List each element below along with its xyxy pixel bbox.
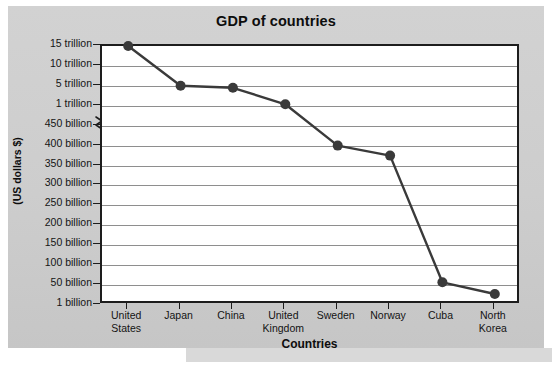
- x-axis-tick-label: Japan: [164, 309, 193, 322]
- y-axis-tick-mark: [93, 263, 100, 264]
- y-axis-tick-marks: [0, 44, 100, 303]
- x-axis-tick-label-line: United: [111, 309, 141, 322]
- chart-figure: GDP of countries (US dollars $) 15 trill…: [0, 0, 552, 366]
- x-axis-tick-label-line: United: [263, 309, 304, 322]
- y-axis-tick-mark: [93, 144, 100, 145]
- y-axis-tick-mark: [93, 164, 100, 165]
- data-point-marker: Norway: 375 billion: [385, 151, 395, 161]
- x-axis-tick-label-line: China: [217, 309, 244, 322]
- y-axis-tick-mark: [93, 223, 100, 224]
- x-axis-tick-label: NorthKorea: [479, 309, 507, 334]
- y-axis-tick-mark: [93, 303, 100, 304]
- data-point-marker: United Kingdom: 1.3 trillion: [280, 99, 290, 109]
- gdp-line-series: United States: 15 trillionJapan: 5 trill…: [102, 46, 521, 305]
- x-axis-tick-label-line: Kingdom: [263, 322, 304, 335]
- data-point-marker: United States: 15 trillion: [123, 41, 133, 51]
- x-axis-tick-label-line: Korea: [479, 322, 507, 335]
- y-axis-tick-mark: [93, 203, 100, 204]
- x-axis-tick-label: China: [217, 309, 244, 322]
- x-axis-tick-label: Cuba: [428, 309, 453, 322]
- x-axis-tick-label-line: Japan: [164, 309, 193, 322]
- y-axis-tick-mark: [93, 243, 100, 244]
- x-axis-title: Countries: [100, 337, 519, 351]
- x-axis-tick-label-line: Sweden: [317, 309, 355, 322]
- data-point-marker: Cuba: 57 billion: [437, 277, 447, 287]
- x-axis-tick-label: UnitedStates: [111, 309, 141, 334]
- x-axis-tick-label-line: States: [111, 322, 141, 335]
- data-point-marker: Japan: 5 trillion: [176, 81, 186, 91]
- y-axis-tick-mark: [93, 44, 100, 45]
- data-point-marker: North Korea: 28 billion: [490, 289, 500, 299]
- y-axis-tick-mark: [93, 84, 100, 85]
- x-axis-tick-label: Sweden: [317, 309, 355, 322]
- chart-title: GDP of countries: [0, 13, 552, 29]
- x-axis-tick-label-line: Norway: [370, 309, 406, 322]
- y-axis-tick-mark: [93, 283, 100, 284]
- x-axis-tick-label-line: North: [479, 309, 507, 322]
- data-point-marker: Sweden: 400 billion: [333, 141, 343, 151]
- x-axis-tick-label-line: Cuba: [428, 309, 453, 322]
- y-axis-tick-mark: [93, 64, 100, 65]
- plot-area: United States: 15 trillionJapan: 5 trill…: [100, 44, 519, 303]
- data-point-marker: China: 4.6 trillion: [228, 83, 238, 93]
- y-axis-tick-mark: [93, 183, 100, 184]
- x-axis-tick-label: Norway: [370, 309, 406, 322]
- y-axis-tick-mark: [93, 104, 100, 105]
- x-axis-tick-label: UnitedKingdom: [263, 309, 304, 334]
